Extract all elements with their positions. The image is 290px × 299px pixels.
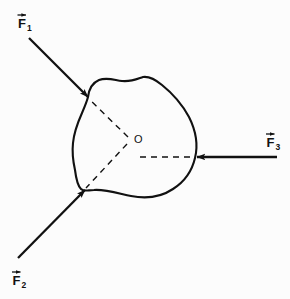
diagram-background [0,0,290,299]
force-label-f3-subscript: 3 [276,142,281,152]
center-point-label-o: O [134,133,143,145]
force-diagram-canvas: F 1 F 2 F 3 O [0,0,290,299]
force-label-f3-letter: F [267,135,275,150]
force-label-f1-letter: F [18,16,26,31]
force-label-f1-subscript: 1 [27,23,32,33]
force-label-f2-letter: F [13,273,21,288]
force-label-f2-subscript: 2 [22,280,27,290]
